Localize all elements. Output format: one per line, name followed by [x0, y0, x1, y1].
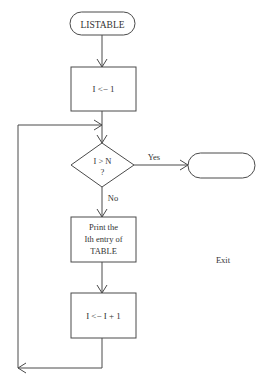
print-label-line1: Print the — [89, 222, 118, 232]
print-label-line2: Ith entry of — [84, 234, 122, 244]
no-label: No — [108, 193, 118, 203]
exit-label: Exit — [216, 255, 231, 265]
increment-label: I <− I + 1 — [86, 311, 121, 321]
exit-terminator — [188, 153, 255, 178]
start-label: LISTABLE — [80, 20, 124, 30]
print-label-line3: TABLE — [90, 246, 117, 256]
decision-label-line2: ? — [101, 167, 105, 177]
yes-label: Yes — [148, 152, 160, 162]
decision-label-line1: I > N — [93, 156, 111, 166]
init-label: I <− 1 — [92, 84, 114, 94]
flowchart: LISTABLE I <− 1 I > N ? Yes No Print the… — [0, 0, 268, 387]
